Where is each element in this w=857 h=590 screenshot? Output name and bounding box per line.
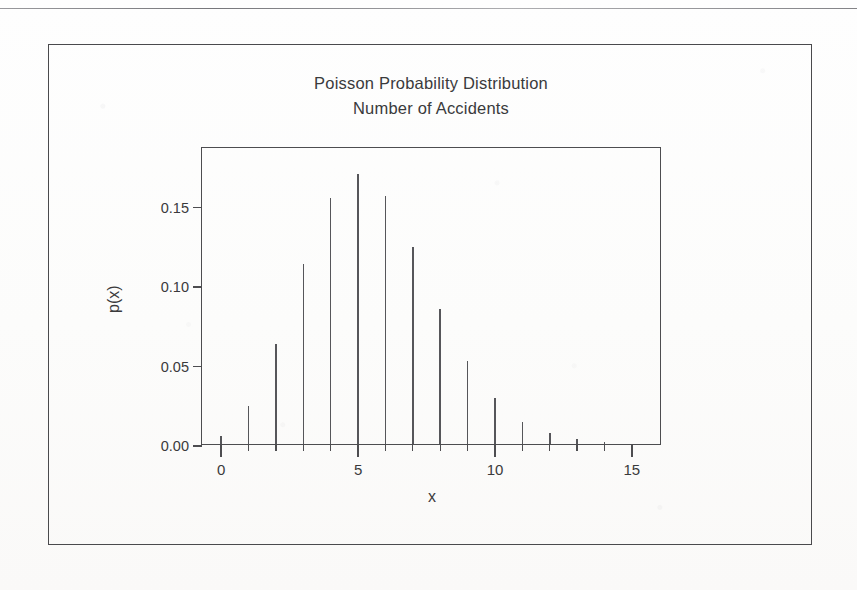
spike-bar xyxy=(385,196,387,444)
x-tick-minor xyxy=(412,444,413,451)
y-tick-label: 0.05 xyxy=(161,359,189,375)
x-tick-minor xyxy=(440,444,441,451)
spike-series xyxy=(202,148,660,444)
spike-bar xyxy=(522,422,524,444)
spike-bar xyxy=(549,433,551,444)
x-tick-major xyxy=(631,444,633,457)
page-top-rule xyxy=(0,8,857,9)
spike-bar xyxy=(248,406,250,444)
spike-bar xyxy=(220,436,222,444)
y-tick-label: 0.10 xyxy=(161,279,189,295)
x-tick-label: 5 xyxy=(354,461,362,478)
y-tick-mark xyxy=(193,366,202,367)
x-tick-label: 15 xyxy=(624,461,641,478)
x-tick-minor xyxy=(330,444,331,451)
x-tick-minor xyxy=(576,444,577,451)
x-tick-major xyxy=(357,444,359,457)
y-tick-label: 0.15 xyxy=(161,200,189,216)
spike-bar xyxy=(303,264,305,444)
x-tick-minor xyxy=(275,444,276,451)
x-tick-minor xyxy=(549,444,550,451)
spike-bar xyxy=(330,198,332,444)
y-tick-mark xyxy=(193,445,202,446)
x-tick-minor xyxy=(248,444,249,451)
x-tick-minor xyxy=(467,444,468,451)
x-tick-label: 0 xyxy=(217,461,225,478)
y-tick-mark xyxy=(193,286,202,287)
spike-bar xyxy=(357,174,359,444)
x-tick-minor xyxy=(522,444,523,451)
x-tick-minor xyxy=(604,444,605,451)
figure-outer-border: Poisson Probability Distribution Number … xyxy=(48,44,812,545)
x-axis-title: x xyxy=(202,488,662,506)
spike-bar xyxy=(275,344,277,444)
x-tick-minor xyxy=(385,444,386,451)
x-tick-major xyxy=(220,444,222,457)
y-tick-mark xyxy=(193,207,202,208)
plot-panel: 0.000.050.100.15 051015 x xyxy=(201,147,661,445)
chart-title-line-2: Number of Accidents xyxy=(49,99,813,118)
spike-bar xyxy=(467,361,469,444)
x-tick-major xyxy=(494,444,496,457)
x-tick-minor xyxy=(303,444,304,451)
y-axis-title: p(x) xyxy=(105,285,123,313)
y-tick-label: 0.00 xyxy=(161,438,189,454)
chart-title-line-1: Poisson Probability Distribution xyxy=(49,74,813,93)
spike-bar xyxy=(439,309,441,444)
x-tick-label: 10 xyxy=(487,461,504,478)
spike-bar xyxy=(494,398,496,444)
spike-bar xyxy=(412,247,414,444)
